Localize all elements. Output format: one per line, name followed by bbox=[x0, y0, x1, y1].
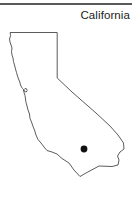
city-marker-icon bbox=[81, 146, 88, 153]
figure-canvas: California bbox=[0, 0, 136, 198]
california-state-outline bbox=[10, 33, 125, 177]
california-map bbox=[0, 0, 136, 198]
